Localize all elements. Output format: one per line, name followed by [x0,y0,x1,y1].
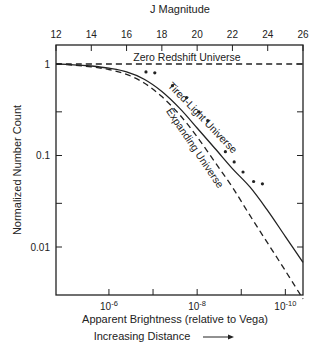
bottom-axis-tick-label: 10-8 [188,299,206,312]
data-point [144,70,147,73]
plot-frame [56,45,303,295]
data-point [252,180,255,183]
bottom-axis-tick-label: 10-10 [274,299,296,312]
top-axis-title: J Magnitude [150,3,210,15]
top-axis-tick-label: 24 [262,29,274,40]
top-axis-tick-label: 26 [297,29,309,40]
top-axis-tick-label: 22 [227,29,239,40]
data-point [233,160,236,163]
data-point [261,182,264,185]
annotation-zero-redshift: Zero Redshift Universe [133,51,241,63]
y-axis-tick-label: 0.1 [36,150,50,161]
top-axis-tick-label: 20 [192,29,204,40]
data-point [153,71,156,74]
y-axis-title: Normalized Number Count [11,105,23,235]
x-axis-title: Apparent Brightness (relative to Vega) [82,313,268,325]
y-axis-tick-label: 0.01 [31,242,51,253]
data-point [224,150,227,153]
top-axis-tick-label: 14 [86,29,98,40]
data-point [241,170,244,173]
top-axis-tick-label: 16 [121,29,133,40]
increasing-distance-arrow-icon [203,335,234,340]
y-axis-tick-label: 1 [44,59,50,70]
top-axis-tick-label: 12 [50,29,62,40]
top-axis-tick-label: 18 [156,29,168,40]
annotation-expanding: Expanding Universe [164,105,227,190]
chart: J Magnitude 1214161820222426 10-610-810-… [0,0,320,359]
x-axis-sublabel: Increasing Distance [94,330,191,342]
bottom-axis-tick-label: 10-6 [100,299,118,312]
